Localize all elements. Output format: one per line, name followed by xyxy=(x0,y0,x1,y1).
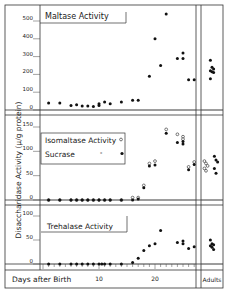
filled-data-point xyxy=(212,71,215,74)
filled-data-point xyxy=(209,59,212,62)
filled-data-point xyxy=(47,263,50,266)
filled-data-point xyxy=(154,37,157,40)
x-tick-20: 20 xyxy=(151,275,159,282)
filled-data-point xyxy=(216,161,219,164)
filled-data-point xyxy=(137,257,140,260)
filled-data-point xyxy=(92,105,95,108)
filled-data-point xyxy=(165,132,168,135)
filled-data-point xyxy=(100,263,103,266)
svg-text:0: 0 xyxy=(30,194,34,200)
filled-data-point xyxy=(98,263,101,266)
filled-data-point xyxy=(148,244,151,247)
open-data-point xyxy=(205,169,208,172)
filled-data-point xyxy=(70,199,73,202)
filled-data-point xyxy=(131,261,134,264)
filled-data-point xyxy=(182,52,185,55)
filled-data-point xyxy=(187,168,190,171)
filled-data-point xyxy=(154,242,157,245)
filled-data-point xyxy=(120,199,123,202)
adults-label: Adults xyxy=(203,276,222,283)
legend-isomaltase-sucrase: Isomaltase Activity Sucrase " xyxy=(41,133,125,164)
filled-data-point xyxy=(148,164,151,167)
filled-data-point xyxy=(58,199,61,202)
filled-data-point xyxy=(47,199,50,202)
trehalase-title: Trehalase Activity xyxy=(46,222,114,231)
isomaltase-legend-label: Isomaltase Activity xyxy=(45,136,117,145)
filled-data-point xyxy=(209,239,212,242)
filled-data-point xyxy=(109,263,112,266)
filled-data-point xyxy=(142,249,145,252)
maltase-title-box: Maltase Activity xyxy=(40,12,126,23)
svg-text:500: 500 xyxy=(23,15,34,21)
filled-data-point xyxy=(86,199,89,202)
filled-data-point xyxy=(193,78,196,81)
filled-data-point xyxy=(92,199,95,202)
filled-data-point xyxy=(193,163,196,166)
svg-text:300: 300 xyxy=(23,51,34,57)
svg-text:100: 100 xyxy=(23,145,34,151)
filled-data-point xyxy=(81,105,84,108)
frame xyxy=(5,5,223,288)
filled-data-point xyxy=(70,104,73,107)
svg-text:0: 0 xyxy=(30,104,34,110)
open-data-point xyxy=(176,133,179,136)
y-axis-label: Disaccharidase Activity (µ/g protein) xyxy=(14,102,23,239)
filled-data-point xyxy=(182,140,185,143)
filled-data-point xyxy=(176,241,179,244)
svg-text:150: 150 xyxy=(23,121,34,127)
filled-data-point xyxy=(193,245,196,248)
filled-data-point xyxy=(176,57,179,60)
filled-data-point xyxy=(81,199,84,202)
open-data-point xyxy=(165,128,168,131)
ditto-mark: " xyxy=(100,151,102,157)
svg-text:50: 50 xyxy=(26,234,33,240)
open-data-point xyxy=(187,166,190,169)
disaccharidase-chart: 0100200300400500050100150050100 Maltase … xyxy=(0,0,229,298)
filled-data-point xyxy=(209,77,212,80)
filled-data-point xyxy=(58,263,61,266)
filled-data-point xyxy=(212,248,215,251)
trehalase-title-box: Trehalase Activity xyxy=(41,216,127,232)
filled-data-point xyxy=(212,68,215,71)
sucrase-legend-label: Sucrase xyxy=(45,150,75,159)
filled-data-point xyxy=(109,102,112,105)
maltase-title: Maltase Activity xyxy=(45,12,109,21)
x-tick-10: 10 xyxy=(95,275,103,282)
filled-data-point xyxy=(182,57,185,60)
filled-data-point xyxy=(187,247,190,250)
filled-data-point xyxy=(159,64,162,67)
filled-circle-marker-icon xyxy=(120,152,123,155)
filled-data-point xyxy=(182,240,185,243)
filled-data-point xyxy=(137,198,140,201)
filled-data-point xyxy=(81,263,84,266)
filled-data-point xyxy=(109,199,112,202)
filled-data-point xyxy=(142,186,145,189)
x-axis-label: Days after Birth xyxy=(12,275,71,284)
svg-text:50: 50 xyxy=(26,170,33,176)
filled-data-point xyxy=(137,99,140,102)
filled-data-point xyxy=(131,99,134,102)
filled-data-point xyxy=(75,199,78,202)
filled-data-point xyxy=(213,167,216,170)
filled-data-point xyxy=(103,101,106,104)
filled-data-point xyxy=(120,101,123,104)
svg-text:400: 400 xyxy=(23,33,34,39)
filled-data-point xyxy=(86,263,89,266)
filled-data-point xyxy=(75,103,78,106)
filled-data-point xyxy=(98,199,101,202)
filled-data-point xyxy=(103,199,106,202)
svg-text:0: 0 xyxy=(30,258,34,264)
filled-data-point xyxy=(182,242,185,245)
svg-text:200: 200 xyxy=(23,68,34,74)
filled-data-point xyxy=(213,155,216,158)
filled-data-point xyxy=(75,263,78,266)
filled-data-point xyxy=(176,141,179,144)
filled-data-point xyxy=(92,263,95,266)
y-axis-ticks: 0100200300400500050100150050100 xyxy=(23,15,41,264)
open-data-point xyxy=(206,165,209,168)
x-axis-ticks xyxy=(43,264,194,269)
svg-text:100: 100 xyxy=(23,210,34,216)
open-data-point xyxy=(154,160,157,163)
filled-data-point xyxy=(86,105,89,108)
filled-data-point xyxy=(58,101,61,104)
